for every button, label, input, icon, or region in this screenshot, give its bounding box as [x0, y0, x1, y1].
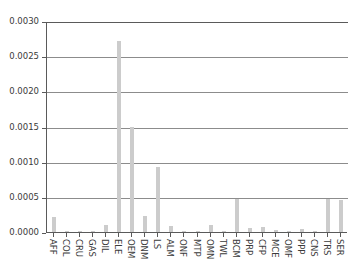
x-tick-label: COL: [60, 239, 72, 273]
bar-mtp: [196, 231, 200, 232]
x-tick-label: CNS: [308, 239, 320, 273]
x-tick-label-text: MTP: [192, 239, 202, 257]
x-tick-mark: [183, 233, 184, 237]
gridline: [47, 128, 348, 129]
gridline: [47, 57, 348, 58]
plot-area: [46, 22, 347, 233]
x-tick-label-text: PPP: [296, 239, 306, 254]
x-tick-label: ALM: [164, 239, 176, 273]
bar-prp: [248, 228, 252, 232]
x-tick-label-text: DIL: [100, 239, 110, 253]
x-tick-label: ELE: [112, 239, 124, 273]
bar-ser: [339, 200, 343, 232]
x-tick-label-text: BCM: [231, 239, 241, 258]
x-tick-label: SER: [334, 239, 346, 273]
bar-col: [65, 231, 69, 232]
bar-trs: [326, 199, 330, 232]
x-tick-label: GAS: [86, 239, 98, 273]
bar-dnm: [143, 216, 147, 232]
x-tick-label: PRP: [243, 239, 255, 273]
x-tick-mark: [105, 233, 106, 237]
x-tick-label-text: LS: [152, 239, 162, 249]
x-tick-label-text: CNS: [309, 239, 319, 257]
x-tick-mark: [236, 233, 237, 237]
x-tick-mark: [118, 233, 119, 237]
x-tick-label: TRS: [321, 239, 333, 273]
x-tick-mark: [262, 233, 263, 237]
y-tick-label: 0.0020: [1, 86, 39, 96]
x-tick-label-text: MCE: [270, 239, 280, 258]
x-tick-label: TWL: [217, 239, 229, 273]
x-tick-label: BCM: [230, 239, 242, 273]
bar-cfp: [261, 227, 265, 232]
x-tick-label-text: AFF: [48, 239, 58, 255]
x-tick-mark: [157, 233, 158, 237]
x-tick-label-text: SER: [335, 239, 345, 256]
x-tick-mark: [314, 233, 315, 237]
gridline: [47, 22, 348, 23]
x-tick-mark: [327, 233, 328, 237]
x-tick-mark: [340, 233, 341, 237]
bar-gas: [91, 231, 95, 232]
x-tick-label: MTP: [191, 239, 203, 273]
bar-omf: [287, 231, 291, 232]
bar-bcm: [235, 199, 239, 232]
y-tick-label: 0.0015: [1, 122, 39, 132]
x-tick-mark: [144, 233, 145, 237]
gridline: [47, 92, 348, 93]
x-tick-label: DNM: [138, 239, 150, 273]
bar-aff: [52, 217, 56, 232]
x-tick-mark: [210, 233, 211, 237]
x-tick-label: AFF: [47, 239, 59, 273]
x-tick-label: CFP: [256, 239, 268, 273]
x-tick-label-text: CFP: [257, 239, 267, 255]
x-tick-label: ONF: [177, 239, 189, 273]
x-tick-mark: [79, 233, 80, 237]
x-tick-label-text: TWL: [218, 239, 228, 257]
y-tick-mark: [42, 233, 46, 234]
x-tick-mark: [131, 233, 132, 237]
x-tick-mark: [53, 233, 54, 237]
bar-ppp: [300, 229, 304, 232]
y-tick-label: 0.0005: [1, 192, 39, 202]
x-tick-label-text: CRU: [74, 239, 84, 257]
x-tick-label: LS: [151, 239, 163, 273]
bar-omn: [209, 225, 213, 232]
x-tick-mark: [197, 233, 198, 237]
x-tick-label: OEM: [125, 239, 137, 273]
x-tick-mark: [223, 233, 224, 237]
bar-ls: [156, 167, 160, 232]
x-tick-mark: [66, 233, 67, 237]
bar-onf: [182, 231, 186, 232]
bar-cru: [78, 231, 82, 232]
bar-cns: [313, 231, 317, 232]
y-tick-label: 0.0025: [1, 51, 39, 61]
x-tick-label-text: OMF: [283, 239, 293, 258]
bar-alm: [169, 226, 173, 232]
bar-dil: [104, 225, 108, 232]
bar-ele: [117, 41, 121, 232]
gridline: [47, 198, 348, 199]
x-tick-label-text: TRS: [322, 239, 332, 256]
x-tick-label-text: DNM: [139, 239, 149, 259]
x-tick-mark: [92, 233, 93, 237]
x-tick-label: OMN: [204, 239, 216, 273]
x-tick-label-text: COL: [61, 239, 71, 256]
x-tick-mark: [170, 233, 171, 237]
bar-oem: [130, 127, 134, 233]
y-tick-label: 0.0000: [1, 227, 39, 237]
x-tick-label-text: GAS: [87, 239, 97, 257]
x-tick-label-text: ALM: [165, 239, 175, 257]
x-tick-label-text: OMN: [205, 239, 215, 259]
x-tick-mark: [301, 233, 302, 237]
y-tick-label: 0.0010: [1, 157, 39, 167]
bar-mce: [274, 230, 278, 232]
bar-twl: [222, 231, 226, 232]
x-tick-label: CRU: [73, 239, 85, 273]
y-tick-label: 0.0030: [1, 16, 39, 26]
x-tick-label-text: ONF: [178, 239, 188, 257]
x-tick-mark: [288, 233, 289, 237]
x-tick-label-text: ELE: [113, 239, 123, 254]
x-tick-mark: [275, 233, 276, 237]
bar-chart-figure: 0.00000.00050.00100.00150.00200.00250.00…: [0, 0, 353, 274]
